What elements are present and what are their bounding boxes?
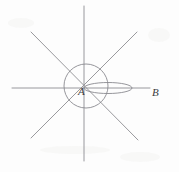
figure-canvas: A B	[0, 0, 179, 172]
point-label-b: B	[152, 86, 159, 98]
geometric-figure: A B	[0, 0, 179, 172]
point-label-a: A	[77, 85, 85, 97]
